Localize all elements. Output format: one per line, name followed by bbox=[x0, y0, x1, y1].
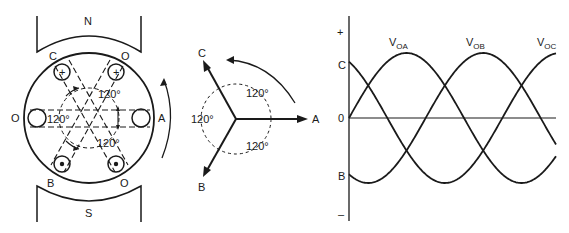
slot-b-label: B bbox=[47, 177, 54, 189]
rotation-arrowhead-icon bbox=[160, 78, 167, 86]
phasor-b bbox=[206, 119, 236, 172]
phasor-c-label: C bbox=[198, 47, 206, 59]
dot-mark-icon bbox=[114, 162, 118, 166]
waveform-chart: + 0 – C B VOA VOB VOC bbox=[337, 16, 557, 221]
phasor-a-label: A bbox=[312, 113, 320, 125]
angle-label: 120° bbox=[47, 113, 70, 125]
slot-o-label: O bbox=[121, 50, 130, 62]
y-zero-label: 0 bbox=[338, 112, 344, 124]
conductor-a bbox=[132, 109, 150, 127]
legend-voc: VOC bbox=[537, 36, 557, 51]
rotation-arrowhead-icon bbox=[226, 56, 234, 64]
plus-mark-icon: + bbox=[59, 66, 65, 78]
phasor-b-label: B bbox=[198, 181, 205, 193]
angle-label: 120° bbox=[97, 137, 120, 149]
conductor-o-left bbox=[28, 109, 46, 127]
phasor-c bbox=[206, 65, 236, 119]
generator-diagram bbox=[24, 16, 171, 222]
c-level-label: C bbox=[338, 59, 346, 71]
slot-c-label: C bbox=[49, 50, 57, 62]
angle-label: 120° bbox=[191, 113, 214, 125]
angle-label: 120° bbox=[98, 88, 121, 100]
y-minus-label: – bbox=[338, 208, 345, 220]
legend-vob: VOB bbox=[466, 36, 485, 51]
pole-s-label: S bbox=[85, 207, 92, 219]
arrowhead-b-icon bbox=[203, 166, 211, 177]
angle-arc bbox=[66, 88, 79, 96]
plus-mark-icon: + bbox=[113, 66, 119, 78]
angle-label: 120° bbox=[246, 87, 269, 99]
figure-canvas: N S C O O A B O + + 120° 120° 120° A C B… bbox=[0, 0, 569, 233]
phasor-diagram bbox=[201, 60, 300, 172]
legend-voa: VOA bbox=[389, 36, 409, 51]
pole-n-label: N bbox=[84, 15, 92, 27]
arrowhead-a-icon bbox=[297, 115, 308, 123]
slot-a-label: A bbox=[158, 112, 166, 124]
armature-circle bbox=[24, 53, 154, 183]
y-plus-label: + bbox=[337, 26, 343, 38]
dot-mark-icon bbox=[60, 162, 64, 166]
b-level-label: B bbox=[338, 170, 345, 182]
slot-o-label: O bbox=[120, 177, 129, 189]
slot-o-label: O bbox=[11, 112, 20, 124]
angle-label: 120° bbox=[246, 140, 269, 152]
